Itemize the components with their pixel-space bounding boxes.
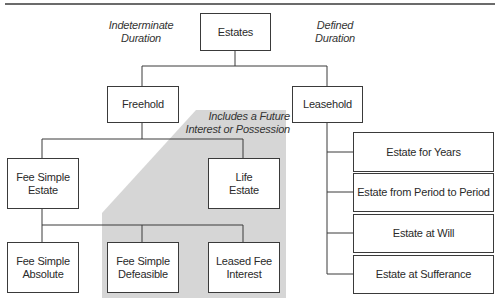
future-interest-label: Includes a Future Interest or Possession	[178, 110, 290, 136]
node-fee-simple-estate: Fee Simple Estate	[7, 158, 79, 209]
node-estate-at-sufferance: Estate at Sufferance	[353, 255, 494, 294]
node-freehold: Freehold	[107, 86, 179, 123]
defined-duration-label: Defined Duration	[300, 19, 370, 45]
node-estate-at-will: Estate at Will	[353, 214, 494, 253]
node-label: Life Estate	[229, 171, 259, 197]
node-fee-simple-absolute: Fee Simple Absolute	[7, 242, 79, 293]
node-label: Leasehold	[303, 98, 352, 111]
node-label: Estates	[218, 26, 253, 39]
node-life-estate: Life Estate	[208, 158, 280, 209]
node-leasehold: Leasehold	[292, 86, 363, 123]
indeterminate-duration-label: Indeterminate Duration	[100, 19, 182, 45]
node-label: Fee Simple Absolute	[16, 255, 70, 281]
node-label: Estate for Years	[386, 146, 460, 159]
node-label: Freehold	[122, 98, 164, 111]
node-label: Leased Fee Interest	[216, 255, 272, 281]
node-label: Estate at Sufferance	[376, 268, 471, 281]
node-estate-for-years: Estate for Years	[353, 132, 494, 172]
node-label: Estate at Will	[393, 227, 454, 240]
node-label: Fee Simple Defeasible	[116, 255, 170, 281]
node-estates: Estates	[200, 13, 271, 51]
node-estate-period-to-period: Estate from Period to Period	[353, 173, 494, 212]
node-label: Estate from Period to Period	[357, 186, 490, 199]
node-leased-fee-interest: Leased Fee Interest	[208, 242, 280, 293]
node-fee-simple-defeasible: Fee Simple Defeasible	[107, 242, 179, 293]
node-label: Fee Simple Estate	[16, 171, 70, 197]
